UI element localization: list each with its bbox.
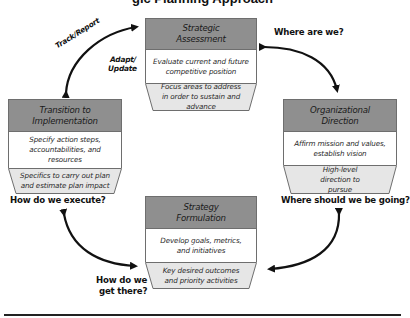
arrow-how-get-there	[64, 214, 135, 266]
arrow-where-going	[270, 213, 339, 269]
stage-title: Strategy Formulation	[145, 196, 257, 229]
label-adapt: Adapt/	[110, 55, 136, 64]
stage-title: Organizational Direction	[283, 99, 397, 132]
stage-title: Transition to Implementation	[8, 99, 122, 132]
stage-activity: Affirm mission and values, establish vis…	[283, 132, 397, 165]
question-where-going: Where should we be going?	[281, 195, 410, 205]
stage-output: Specifics to carry out plan and estimate…	[8, 168, 122, 194]
stage-output: High-level direction to pursue	[283, 165, 397, 194]
question-how-get-there-line2: get there?	[99, 286, 147, 296]
stage-output-text: Specifics to carry out plan and estimate…	[20, 171, 110, 191]
stage-organizational-direction: Organizational Direction Affirm mission …	[283, 99, 397, 194]
stage-title: Strategic Assessment	[145, 18, 257, 50]
arrow-where-are-we	[264, 47, 337, 90]
stage-strategy-formulation: Strategy Formulation Develop goals, metr…	[145, 196, 257, 289]
stage-transition-to-implementation: Transition to Implementation Specify act…	[8, 99, 122, 194]
question-where-are-we: Where are we?	[274, 27, 344, 37]
stage-output: Focus areas to address in order to susta…	[145, 83, 257, 111]
stage-activity: Specify action steps, accountabilities, …	[8, 132, 122, 168]
stage-output-text: High-level direction to pursue	[311, 165, 369, 195]
stage-activity: Develop goals, metrics, and initiatives	[145, 229, 257, 262]
stage-activity: Evaluate current and future competitive …	[145, 50, 257, 83]
stage-strategic-assessment: Strategic Assessment Evaluate current an…	[145, 18, 257, 111]
stage-output: Key desired outcomes and priority activi…	[145, 262, 257, 289]
label-update: Update	[108, 64, 137, 73]
stage-output-text: Focus areas to address in order to susta…	[157, 82, 245, 112]
bottom-rule	[4, 314, 401, 316]
question-how-get-there-line1: How do we	[96, 275, 147, 285]
stage-output-text: Key desired outcomes and priority activi…	[157, 266, 245, 286]
question-how-execute: How do we execute?	[10, 195, 106, 205]
